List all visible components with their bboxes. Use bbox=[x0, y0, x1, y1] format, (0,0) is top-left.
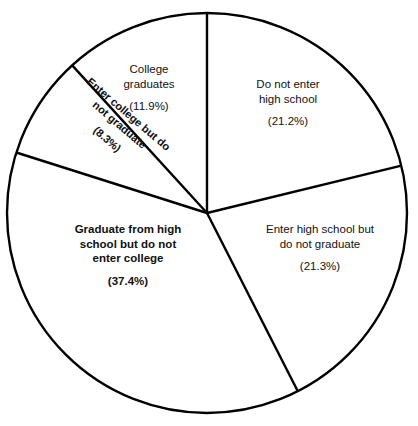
pie-slice-label-graduate-high-school-no-college: Graduate from high school but do not ent… bbox=[52, 222, 204, 289]
pie-chart-graphic bbox=[0, 0, 418, 426]
label-percent: (21.2%) bbox=[228, 114, 348, 129]
label-line: Graduate from high bbox=[52, 222, 204, 237]
label-line: Do not enter bbox=[228, 77, 348, 92]
label-percent: (21.3%) bbox=[250, 259, 390, 274]
label-line: Enter high school but bbox=[250, 222, 390, 237]
pie-slice-label-do-not-enter-high-school: Do not enter high school (21.2%) bbox=[228, 77, 348, 129]
label-percent: (37.4%) bbox=[52, 274, 204, 289]
pie-chart: College graduates (11.9%) Do not enter h… bbox=[0, 0, 418, 426]
label-line: high school bbox=[228, 92, 348, 107]
label-line: do not graduate bbox=[250, 237, 390, 252]
pie-slice-label-enter-high-school-no-graduate: Enter high school but do not graduate (2… bbox=[250, 222, 390, 274]
label-line: College bbox=[94, 62, 204, 77]
label-line: enter college bbox=[52, 251, 204, 266]
label-line: school but do not bbox=[52, 237, 204, 252]
